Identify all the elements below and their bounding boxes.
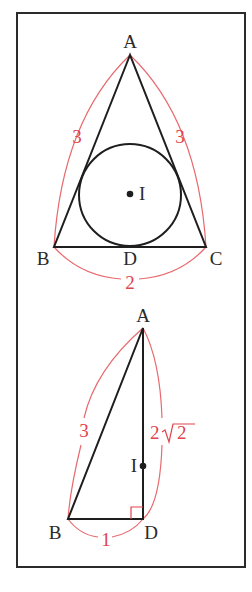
measure-bottom-ad-radicand: 2 (177, 422, 187, 443)
arc-top-bc-left (54, 247, 121, 279)
incenter-point-i (127, 191, 134, 198)
arc-bottom-bd-right (112, 519, 143, 537)
measure-bottom-ab: 3 (79, 420, 89, 441)
label-top-c: C (210, 248, 223, 269)
measure-top-ab: 3 (72, 126, 82, 147)
measure-bottom-ad: 2 2 (150, 422, 195, 443)
measure-top-ac: 3 (175, 126, 185, 147)
right-angle-mark (131, 507, 143, 519)
measure-bottom-bd: 1 (101, 529, 111, 550)
diagram-canvas: A B D C I 3 3 2 A B D I 3 1 2 2 (0, 0, 252, 592)
label-bottom-d: D (144, 522, 158, 543)
label-top-d: D (123, 248, 137, 269)
arc-bottom-ad-upper (143, 328, 162, 418)
triangle-abc (54, 55, 206, 247)
arc-bottom-bd-left (68, 519, 98, 537)
arc-bottom-ad-lower (143, 445, 162, 519)
arc-top-bc-right (139, 247, 206, 279)
figure-top: A B D C I 3 3 2 (37, 31, 223, 293)
label-top-i: I (139, 183, 145, 204)
arc-bottom-ab-lower (68, 445, 81, 519)
figure-bottom: A B D I 3 1 2 2 (49, 305, 195, 550)
label-top-a: A (123, 31, 137, 52)
label-bottom-b: B (49, 522, 62, 543)
label-bottom-a: A (136, 305, 150, 326)
point-i (140, 463, 147, 470)
measure-top-bc: 2 (125, 272, 135, 293)
label-bottom-i: I (131, 455, 137, 476)
measure-bottom-ad-coef: 2 (150, 422, 160, 443)
label-top-b: B (37, 248, 50, 269)
